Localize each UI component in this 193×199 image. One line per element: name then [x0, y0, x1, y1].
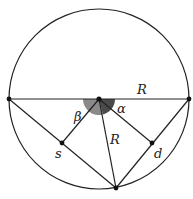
- radius-label-top: R: [136, 82, 147, 97]
- d-label: d: [154, 146, 162, 161]
- s-label: s: [55, 146, 62, 161]
- d-point: [150, 141, 155, 146]
- geometry-diagram: R R β α s d: [0, 0, 193, 199]
- radius-label-inner: R: [109, 132, 120, 147]
- alpha-label: α: [117, 101, 126, 116]
- left-point: [7, 97, 12, 102]
- center-point: [96, 96, 101, 101]
- bottom-point: [114, 186, 119, 191]
- right-point: [187, 97, 192, 102]
- beta-label: β: [73, 109, 82, 124]
- s-point: [60, 141, 65, 146]
